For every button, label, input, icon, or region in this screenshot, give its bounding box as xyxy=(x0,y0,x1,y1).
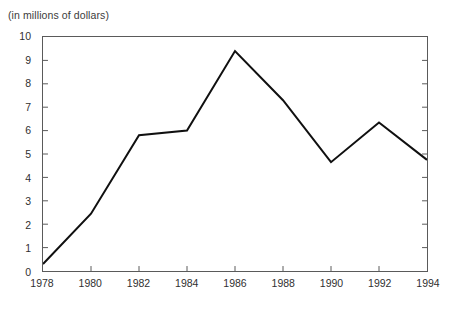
y-tick-label: 2 xyxy=(25,219,31,231)
x-tick-label: 1994 xyxy=(416,277,439,289)
y-tick-label: 5 xyxy=(25,148,31,160)
y-tick-label: 4 xyxy=(25,172,31,184)
x-axis: 197819801982198419861988199019921994 xyxy=(42,277,428,297)
chart-screenshot: (in millions of dollars) 012345678910 19… xyxy=(0,0,454,316)
x-tick-label: 1984 xyxy=(175,277,198,289)
x-tick-label: 1990 xyxy=(320,277,343,289)
x-tick-label: 1992 xyxy=(368,277,391,289)
y-tick-label: 8 xyxy=(25,77,31,89)
y-tick-label: 9 xyxy=(25,54,31,66)
x-tick-label: 1986 xyxy=(223,277,246,289)
y-tick-label: 3 xyxy=(25,195,31,207)
y-tick-label: 1 xyxy=(25,242,31,254)
chart-caption: (in millions of dollars) xyxy=(8,9,109,21)
y-tick-label: 6 xyxy=(25,124,31,136)
x-tick-label: 1978 xyxy=(30,277,53,289)
x-tick-label: 1980 xyxy=(79,277,102,289)
data-line-series-0 xyxy=(43,51,427,264)
y-axis: 012345678910 xyxy=(0,36,38,272)
x-tick-label: 1988 xyxy=(272,277,295,289)
y-tick-label: 10 xyxy=(19,30,31,42)
line-chart-svg xyxy=(43,37,427,271)
y-tick-label: 7 xyxy=(25,101,31,113)
plot-area xyxy=(42,36,428,272)
x-tick-label: 1982 xyxy=(127,277,150,289)
